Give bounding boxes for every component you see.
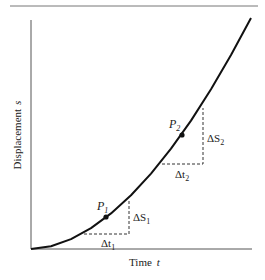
delta-t1-label: Δt1 bbox=[101, 237, 115, 252]
point-p2-label: P2 bbox=[168, 117, 180, 133]
delta-s1-label: ΔS1 bbox=[133, 211, 150, 226]
delta-s2-label: ΔS2 bbox=[207, 132, 224, 147]
y-axis-label: Displacements bbox=[11, 101, 23, 170]
point-p1-marker bbox=[103, 214, 108, 219]
x-axis-label: Timet bbox=[129, 256, 161, 268]
delta-t2-label: Δt2 bbox=[175, 168, 189, 183]
point-p1-label: P1 bbox=[96, 199, 108, 215]
point-p2-marker bbox=[179, 132, 184, 137]
displacement-time-diagram: P1 P2 ΔS1 Δt1 ΔS2 Δt2 Timet Displacement… bbox=[0, 0, 265, 280]
